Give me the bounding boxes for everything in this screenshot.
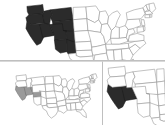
state-nd-bl[interactable] — [45, 76, 54, 84]
state-al-bl[interactable] — [70, 103, 76, 110]
state-wa-bl[interactable] — [16, 75, 27, 81]
state-ks-br[interactable] — [159, 105, 165, 115]
state-mt-br[interactable] — [133, 69, 157, 84]
map-panel-top[interactable] — [0, 0, 165, 61]
western-states-group — [107, 66, 165, 125]
us-map-bottom-right — [103, 62, 165, 125]
state-wa[interactable] — [27, 4, 44, 14]
us-states-group-bottom-left — [15, 74, 97, 119]
state-ct[interactable] — [145, 15, 150, 18]
state-or-bl[interactable] — [15, 81, 27, 88]
state-ct-bl[interactable] — [90, 81, 93, 83]
state-ks-bl[interactable] — [46, 98, 57, 104]
state-wi[interactable] — [99, 11, 109, 25]
state-md[interactable] — [137, 27, 144, 33]
map-panel-bottom-left[interactable] — [0, 61, 103, 125]
state-nd-br[interactable] — [157, 69, 165, 82]
us-map-top — [0, 0, 165, 60]
state-ms[interactable] — [107, 50, 115, 60]
state-ks[interactable] — [75, 41, 92, 50]
state-ny-bl[interactable] — [79, 77, 91, 84]
us-states-group-top — [26, 3, 156, 60]
state-nj-bl[interactable] — [88, 84, 90, 88]
state-sd-bl[interactable] — [45, 84, 54, 92]
map-panel-bottom-right[interactable] — [103, 61, 165, 125]
state-ri-bl[interactable] — [93, 81, 94, 83]
state-md-bl[interactable] — [85, 89, 89, 93]
state-fl-bl[interactable] — [76, 109, 87, 118]
state-mt-bl[interactable] — [31, 77, 45, 86]
state-la-bl[interactable] — [58, 105, 67, 113]
state-az[interactable] — [54, 39, 66, 53]
state-ky[interactable] — [111, 37, 129, 44]
state-al[interactable] — [113, 49, 122, 60]
state-wa-br[interactable] — [108, 66, 126, 77]
us-map-bottom-left — [0, 62, 102, 125]
state-or-br[interactable] — [107, 76, 127, 87]
state-sd[interactable] — [73, 19, 88, 32]
state-az-br[interactable] — [137, 103, 150, 117]
state-wi-bl[interactable] — [61, 79, 67, 88]
state-ri[interactable] — [150, 15, 152, 17]
map-figure — [0, 0, 165, 125]
state-nj[interactable] — [141, 20, 145, 26]
state-ny[interactable] — [126, 8, 145, 20]
state-sd-br[interactable] — [157, 81, 165, 94]
state-az-bl[interactable] — [33, 97, 41, 106]
state-nd[interactable] — [73, 7, 87, 20]
state-ne-br[interactable] — [158, 94, 165, 106]
state-mt[interactable] — [51, 7, 74, 21]
